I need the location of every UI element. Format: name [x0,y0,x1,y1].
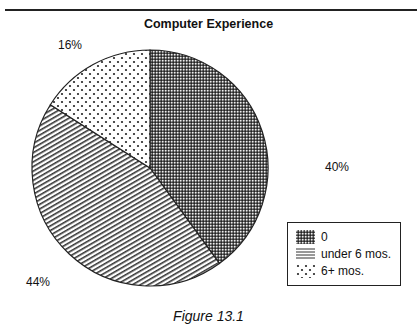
legend-swatch-dots [296,264,315,278]
slice-label-6-plus: 16% [58,38,82,52]
legend-label: 0 [321,230,328,244]
slice-label-0: 40% [325,160,349,174]
figure-caption: Figure 13.1 [0,308,417,324]
legend-swatch-lines [296,247,315,261]
legend-swatch-crosshatch [296,230,315,244]
legend-item-under-6: under 6 mos. [296,247,391,261]
legend-item-6-plus: 6+ mos. [296,264,364,278]
legend-item-0: 0 [296,230,328,244]
legend-label: under 6 mos. [321,247,391,261]
legend-label: 6+ mos. [321,264,364,278]
slice-label-under-6: 44% [26,275,50,289]
legend: 0 under 6 mos. 6+ mos. [287,222,401,286]
